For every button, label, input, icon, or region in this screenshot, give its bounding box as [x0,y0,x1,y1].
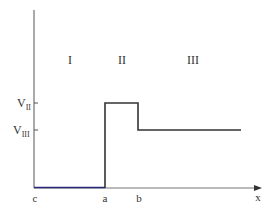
a-label: a [103,192,108,204]
region-1-label: I [68,53,72,67]
region-2-label: II [118,53,126,67]
potential-step-line [105,103,241,188]
region-3-label: III [187,53,199,67]
b-label: b [136,192,142,204]
v3-label: VIII [13,123,30,139]
potential-diagram: I II III VII VIII c a b x [0,0,277,211]
c-label: c [33,192,38,204]
x-axis-label: x [255,191,261,203]
v2-label: VII [17,96,31,112]
